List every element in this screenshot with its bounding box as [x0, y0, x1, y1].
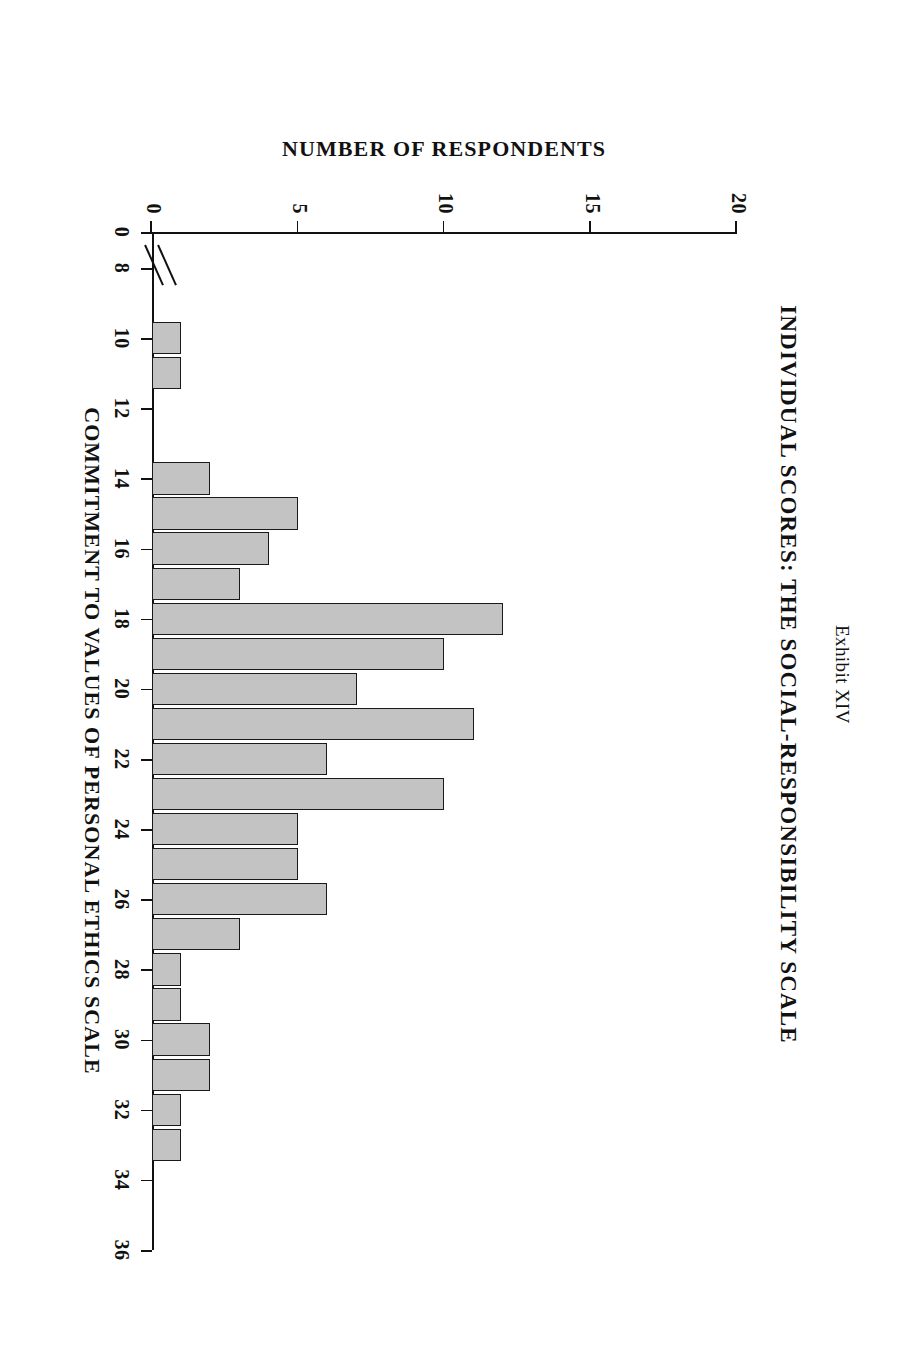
bar — [152, 1059, 211, 1091]
y-tick-label: 0 — [142, 170, 165, 214]
x-tick-label: 30 — [110, 1017, 133, 1063]
bar — [152, 1129, 181, 1161]
y-tick — [589, 221, 591, 232]
x-tick — [141, 549, 152, 551]
x-tick-label: 24 — [110, 806, 133, 852]
x-tick — [141, 1110, 152, 1112]
bar — [152, 848, 298, 880]
y-tick — [735, 221, 737, 232]
chart-title: INDIVIDUAL SCORES: THE SOCIAL-RESPONSIBI… — [775, 0, 801, 1349]
x-tick-label: 32 — [110, 1087, 133, 1133]
x-tick-label: 10 — [110, 315, 133, 361]
bar — [152, 532, 269, 564]
x-tick-label: 16 — [110, 526, 133, 572]
bar — [152, 953, 181, 985]
x-tick-label: 26 — [110, 876, 133, 922]
y-tick-label: 20 — [727, 170, 750, 214]
x-tick — [141, 338, 152, 340]
x-tick — [141, 759, 152, 761]
bar — [152, 497, 298, 529]
bar — [152, 988, 181, 1020]
x-tick-label: 12 — [110, 385, 133, 431]
bar — [152, 708, 474, 740]
y-axis-line — [152, 232, 737, 234]
x-tick-label: 18 — [110, 596, 133, 642]
bar — [152, 813, 298, 845]
x-tick-label: 28 — [110, 946, 133, 992]
x-tick — [141, 899, 152, 901]
y-axis-title: NUMBER OF RESPONDENTS — [283, 136, 607, 162]
x-tick — [141, 478, 152, 480]
bar — [152, 743, 328, 775]
bar — [152, 568, 240, 600]
y-tick-label: 10 — [435, 170, 458, 214]
x-tick-label: 8 — [110, 245, 133, 291]
bar — [152, 673, 357, 705]
x-tick-label: 20 — [110, 666, 133, 712]
bar — [152, 883, 328, 915]
x-tick — [141, 232, 152, 234]
x-tick — [141, 619, 152, 621]
x-tick — [141, 408, 152, 410]
x-axis-title: COMMITMENT TO VALUES OF PERSONAL ETHICS … — [79, 232, 105, 1250]
x-tick-label: 36 — [110, 1227, 133, 1273]
rotated-page-wrapper: Exhibit XIV INDIVIDUAL SCORES: THE SOCIA… — [0, 0, 897, 1349]
x-tick — [141, 268, 152, 270]
x-tick — [141, 969, 152, 971]
plot-area: 05101520 081012141618202224262830323436 … — [152, 232, 737, 1250]
x-tick-label: 14 — [110, 455, 133, 501]
y-tick — [297, 221, 299, 232]
y-tick-label: 15 — [581, 170, 604, 214]
x-tick-label: 22 — [110, 736, 133, 782]
bar — [152, 357, 181, 389]
exhibit-page: Exhibit XIV INDIVIDUAL SCORES: THE SOCIA… — [0, 0, 897, 1349]
x-tick-label: 34 — [110, 1157, 133, 1203]
x-tick — [141, 1040, 152, 1042]
bar — [152, 778, 445, 810]
bar — [152, 1094, 181, 1126]
bar — [152, 638, 445, 670]
bar — [152, 322, 181, 354]
x-tick — [141, 1250, 152, 1252]
x-tick — [141, 1180, 152, 1182]
y-tick — [150, 221, 152, 232]
bar — [152, 918, 240, 950]
bar — [152, 603, 503, 635]
bar — [152, 1023, 211, 1055]
exhibit-number: Exhibit XIV — [831, 0, 853, 1349]
bar — [152, 462, 211, 494]
y-tick-label: 5 — [288, 170, 311, 214]
y-tick — [443, 221, 445, 232]
x-tick — [141, 689, 152, 691]
x-tick — [141, 829, 152, 831]
